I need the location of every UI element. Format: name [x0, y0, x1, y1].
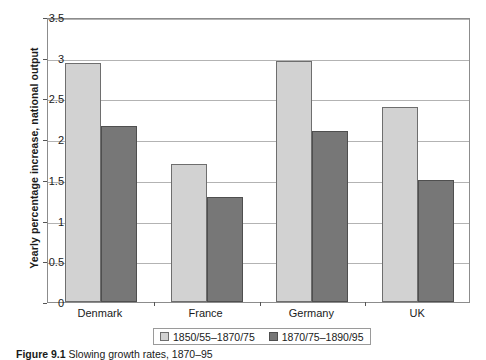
x-tick-label-france: France: [189, 307, 223, 319]
caption-label: Figure 9.1: [16, 348, 66, 360]
y-tick-mark: [43, 140, 47, 141]
bar-denmark-series-1: [101, 126, 137, 302]
y-tick-mark: [43, 99, 47, 100]
bar-uk-series-0: [382, 107, 418, 302]
bar-denmark-series-0: [65, 63, 101, 302]
y-tick-mark: [43, 59, 47, 60]
x-tick-mark: [154, 302, 155, 306]
bar-germany-series-1: [312, 131, 348, 302]
plot-area: [47, 18, 470, 303]
x-tick-label-germany: Germany: [289, 307, 334, 319]
legend-label-0: 1850/55–1870/75: [173, 331, 255, 343]
x-tick-mark: [365, 302, 366, 306]
chart-legend: 1850/55–1870/751870/75–1890/95: [153, 328, 371, 345]
y-tick-mark: [43, 222, 47, 223]
y-tick-mark: [43, 181, 47, 182]
figure-caption: Figure 9.1 Slowing growth rates, 1870–95: [16, 348, 213, 360]
legend-item-0: 1850/55–1870/75: [160, 331, 255, 343]
bars-layer: [48, 19, 469, 302]
y-tick-mark: [43, 303, 47, 304]
y-tick-mark: [43, 18, 47, 19]
legend-swatch-1: [269, 332, 278, 341]
caption-text: Slowing growth rates, 1870–95: [69, 348, 213, 360]
legend-label-1: 1870/75–1890/95: [282, 331, 364, 343]
legend-item-1: 1870/75–1890/95: [269, 331, 364, 343]
bar-uk-series-1: [418, 180, 454, 302]
x-tick-label-uk: UK: [409, 307, 424, 319]
x-tick-mark: [260, 302, 261, 306]
x-tick-label-denmark: Denmark: [78, 307, 123, 319]
bar-germany-series-0: [276, 61, 312, 302]
legend-swatch-0: [160, 332, 169, 341]
y-tick-mark: [43, 262, 47, 263]
bar-france-series-0: [171, 164, 207, 302]
bar-france-series-1: [207, 197, 243, 302]
